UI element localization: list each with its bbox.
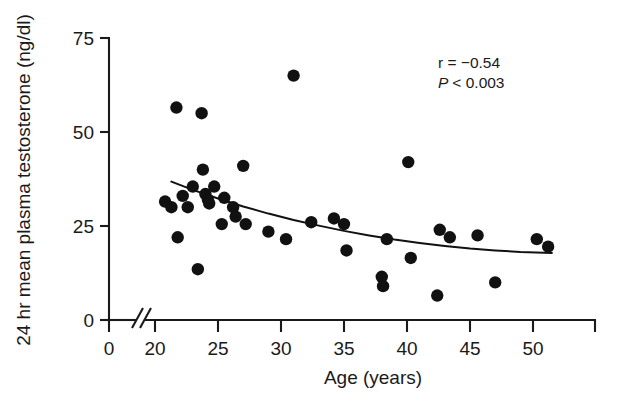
data-point xyxy=(431,289,443,301)
data-point xyxy=(262,225,274,237)
y-tick-label-0: 0 xyxy=(83,310,94,331)
x-tick-label-20: 20 xyxy=(144,338,165,359)
scatter-points-group xyxy=(159,69,554,301)
x-tick-label-30: 30 xyxy=(270,338,291,359)
regression-curve xyxy=(171,182,552,253)
x-axis-break-marker xyxy=(132,308,151,328)
data-point xyxy=(165,201,177,213)
pvalue-symbol: P xyxy=(438,74,449,91)
x-tick-label-40: 40 xyxy=(396,338,417,359)
data-point xyxy=(203,197,215,209)
data-point xyxy=(381,233,393,245)
data-point xyxy=(195,107,207,119)
y-tick-label-50: 50 xyxy=(73,122,94,143)
data-point xyxy=(305,216,317,228)
x-tick-label-25: 25 xyxy=(207,338,228,359)
x-tick-label-35: 35 xyxy=(333,338,354,359)
data-point xyxy=(340,244,352,256)
data-point xyxy=(489,276,501,288)
y-axis-ticks xyxy=(100,38,109,320)
data-point xyxy=(171,231,183,243)
data-point xyxy=(434,224,446,236)
plot-canvas: 75 50 25 0 0 20 25 30 35 40 4 xyxy=(0,0,623,407)
scatter-plot-figure: 75 50 25 0 0 20 25 30 35 40 4 xyxy=(0,0,623,407)
data-point xyxy=(216,218,228,230)
y-tick-label-75: 75 xyxy=(73,28,94,49)
pvalue-value: < 0.003 xyxy=(452,74,504,91)
pvalue-annotation: P< 0.003 xyxy=(438,74,505,91)
data-point xyxy=(170,101,182,113)
data-point xyxy=(218,192,230,204)
x-tick-label-0: 0 xyxy=(104,338,115,359)
data-point xyxy=(187,180,199,192)
data-point xyxy=(192,263,204,275)
data-point xyxy=(237,160,249,172)
data-point xyxy=(229,210,241,222)
data-point xyxy=(240,218,252,230)
data-point xyxy=(287,69,299,81)
data-point xyxy=(531,233,543,245)
data-point xyxy=(177,190,189,202)
data-point xyxy=(402,156,414,168)
data-point xyxy=(197,163,209,175)
data-point xyxy=(338,218,350,230)
x-tick-label-50: 50 xyxy=(522,338,543,359)
data-point xyxy=(377,280,389,292)
data-point xyxy=(405,252,417,264)
correlation-annotation: r = −0.54 xyxy=(438,54,500,71)
y-axis-title: 24 hr mean plasma testosterone (ng/dl) xyxy=(13,14,34,346)
x-axis-title: Age (years) xyxy=(324,367,422,388)
x-tick-label-45: 45 xyxy=(459,338,480,359)
data-point xyxy=(444,231,456,243)
data-point xyxy=(208,180,220,192)
x-axis-ticks xyxy=(109,320,595,332)
data-point xyxy=(182,201,194,213)
data-point xyxy=(542,240,554,252)
data-point xyxy=(280,233,292,245)
data-point xyxy=(471,229,483,241)
y-tick-label-25: 25 xyxy=(73,216,94,237)
